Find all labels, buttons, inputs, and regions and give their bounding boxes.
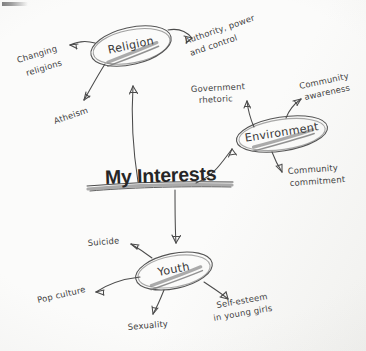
connector-center-to-youth — [172, 190, 181, 243]
branch-arrow-changing-religions — [70, 41, 95, 49]
page-title: My Interests — [105, 162, 217, 188]
branch-arrow-sexuality — [152, 290, 164, 314]
mindmap-canvas: Religion Environment Youth Changing reli… — [0, 0, 366, 351]
branch-arrow-government-rhetoric — [244, 101, 254, 127]
mindmap-drawing: Religion Environment Youth Changing reli… — [0, 0, 366, 351]
branch-label-sexuality: Sexuality — [127, 319, 168, 332]
branch-arrow-atheism — [84, 64, 105, 100]
branch-arrow-self-esteem-young-girls — [204, 282, 228, 299]
branch-label-pop-culture: Pop culture — [36, 284, 86, 305]
branch-label-government-rhetoric-line1: Government — [191, 81, 246, 94]
branch-label-government-rhetoric-line2: rhetoric — [199, 93, 234, 105]
branch-label-atheism: Atheism — [52, 105, 89, 126]
branch-arrow-pop-culture — [96, 277, 140, 295]
branch-label-community-commitment-line1: Community — [287, 163, 338, 176]
branch-label-suicide: Suicide — [87, 235, 120, 248]
branch-label-community-commitment-line2: commitment — [289, 174, 346, 188]
branch-arrow-community-commitment — [272, 152, 282, 172]
branch-arrow-suicide — [131, 244, 152, 258]
